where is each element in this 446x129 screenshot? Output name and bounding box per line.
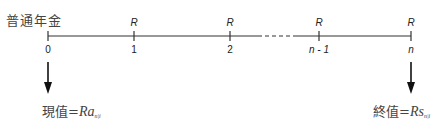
- equals-sign: =: [68, 104, 79, 119]
- payment-label-n-1: R: [315, 17, 322, 28]
- tick-label-2: 2: [227, 44, 233, 55]
- future-value-label: 終值: [373, 104, 399, 119]
- present-value-subscript: n|i: [94, 113, 100, 119]
- tick-label-n-1: n - 1: [309, 44, 329, 55]
- tick-label-0: 0: [45, 44, 51, 55]
- present-value-formula: 現值=Ran|i: [42, 101, 101, 120]
- tick-label-1: 1: [131, 44, 137, 55]
- payment-label-1: R: [130, 17, 137, 28]
- present-value-var: Ra: [79, 104, 95, 119]
- future-value-arrow-head: [407, 82, 415, 94]
- future-value-formula: 終值=Rsn|i: [373, 101, 430, 120]
- equals-sign: =: [399, 104, 410, 119]
- tick-label-n: n: [408, 44, 414, 55]
- payment-label-2: R: [226, 17, 233, 28]
- future-value-subscript: n|i: [424, 113, 430, 119]
- present-value-label: 現值: [42, 104, 68, 119]
- present-value-arrow-head: [44, 82, 52, 94]
- payment-label-n: R: [407, 17, 414, 28]
- future-value-var: Rs: [410, 104, 424, 119]
